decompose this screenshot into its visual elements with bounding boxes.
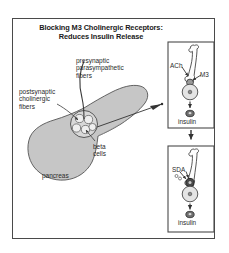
- beta-cell: [84, 115, 92, 123]
- beta-cells-line-2: cells: [93, 150, 106, 157]
- label-beta-cells: beta cells: [93, 143, 106, 158]
- label-postsynaptic-fibers: postsynaptic cholinergic fibers: [19, 88, 55, 110]
- beta-cell: [81, 125, 89, 133]
- label-m3: M3: [200, 71, 209, 78]
- postsynaptic-line-3: fibers: [19, 103, 55, 110]
- label-presynaptic-fibers: presynaptic parasympathetic fibers: [76, 57, 124, 79]
- insulin-granule-highlight: [189, 112, 192, 114]
- beta-cell: [89, 123, 96, 130]
- presynaptic-line-1: presynaptic: [76, 57, 124, 64]
- beta-cell-nucleus: [188, 192, 192, 196]
- label-sda: SDA: [172, 166, 185, 173]
- top-inset-panel: [168, 42, 214, 128]
- presynaptic-line-3: fibers: [76, 72, 124, 79]
- label-pancreas: pancreas: [42, 172, 69, 179]
- diagram-artwork: [0, 0, 229, 253]
- insulin-granule-highlight: [189, 213, 192, 215]
- postsynaptic-line-1: postsynaptic: [19, 88, 55, 95]
- connector-arrowhead: [150, 104, 162, 110]
- label-insulin-bottom: insulin: [178, 219, 196, 226]
- label-ach: ACh: [170, 62, 182, 69]
- postsynaptic-line-2: cholinergic: [19, 95, 55, 102]
- figure-root: Blocking M3 Cholinergic Receptors: Reduc…: [0, 0, 229, 253]
- beta-cell: [72, 124, 80, 132]
- beta-cell-nucleus: [188, 90, 192, 94]
- beta-cells-line-1: beta: [93, 143, 106, 150]
- presynaptic-line-2: parasympathetic: [76, 64, 124, 71]
- receptor-block-center: [189, 181, 192, 184]
- label-insulin-top: insulin: [178, 118, 196, 125]
